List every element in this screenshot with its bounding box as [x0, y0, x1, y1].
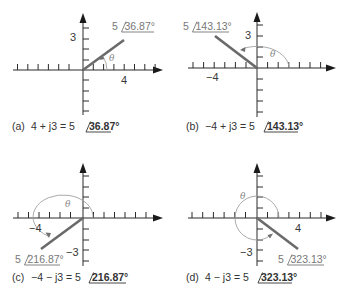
caption-prefix: (c)	[12, 271, 24, 283]
x-value-label: 4	[295, 222, 301, 234]
vector-magnitude-label: 5	[15, 253, 21, 265]
y-value-label: −3	[66, 246, 79, 258]
theta-label: θ	[65, 199, 71, 209]
panel-b: θ 3 −4 5 143.13° (b) −4 + j3 = 5 143.13°	[183, 12, 336, 132]
caption-prefix: (a)	[12, 120, 25, 132]
panel-d: θ −3 4 5 323.13° (d) 4 − j3 = 5 323.13°	[186, 163, 336, 283]
x-value-label: −4	[206, 71, 219, 83]
x-value-label: 4	[121, 74, 127, 86]
imag-axis-arrow-icon	[254, 163, 261, 173]
vector-angle-label: 36.87°	[125, 20, 155, 32]
caption-expression: 4 − j3 = 5	[205, 271, 249, 283]
theta-arc	[33, 195, 93, 236]
vector-magnitude-label: 5	[112, 20, 118, 32]
y-value-label: 3	[70, 31, 76, 43]
theta-label: θ	[240, 191, 246, 201]
theta-arrow-icon	[268, 234, 274, 239]
theta-arrow-icon	[240, 47, 246, 52]
vector-angle-label: 323.13°	[291, 253, 327, 265]
vector-angle-label: 216.87°	[28, 253, 64, 265]
theta-label: θ	[109, 53, 115, 63]
phasor-diagram-figure: θ 3 4 5 36.87° (a) 4 + j3 = 5 36.87°	[0, 0, 350, 299]
caption-angle: 216.87°	[92, 271, 128, 283]
caption-expression: −4 + j3 = 5	[205, 120, 255, 132]
real-axis-arrow-icon	[153, 67, 163, 74]
caption-angle: 36.87°	[89, 120, 119, 132]
y-value-label: 3	[245, 29, 251, 41]
caption-angle: 323.13°	[261, 271, 297, 283]
panel-c: θ −3 −4 5 216.87° (c) −4 − j3 = 5 216.87…	[12, 163, 163, 283]
vector-magnitude-label: 5	[278, 253, 284, 265]
real-axis-arrow-icon	[153, 215, 163, 222]
caption-expression: −4 − j3 = 5	[31, 271, 81, 283]
x-value-label: −4	[29, 222, 42, 234]
theta-label: θ	[270, 49, 276, 59]
vector-angle-label: 143.13°	[196, 20, 232, 32]
real-axis-ticks	[18, 212, 146, 218]
real-axis-arrow-icon	[326, 65, 336, 72]
caption-prefix: (b)	[186, 120, 199, 132]
real-axis-arrow-icon	[326, 215, 336, 222]
imag-axis-arrow-icon	[254, 12, 261, 22]
caption-expression: 4 + j3 = 5	[31, 120, 75, 132]
imag-axis-arrow-icon	[80, 163, 87, 173]
caption-prefix: (d)	[186, 271, 199, 283]
panel-a: θ 3 4 5 36.87° (a) 4 + j3 = 5 36.87°	[12, 13, 163, 132]
imag-axis-arrow-icon	[80, 13, 87, 23]
vector-magnitude-label: 5	[183, 20, 189, 32]
phasor-vector	[257, 218, 298, 249]
caption-angle: 143.13°	[267, 120, 303, 132]
theta-arc	[242, 46, 289, 68]
y-value-label: −3	[240, 246, 253, 258]
